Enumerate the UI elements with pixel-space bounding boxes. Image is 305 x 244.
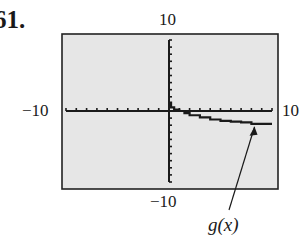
graph <box>0 0 305 244</box>
